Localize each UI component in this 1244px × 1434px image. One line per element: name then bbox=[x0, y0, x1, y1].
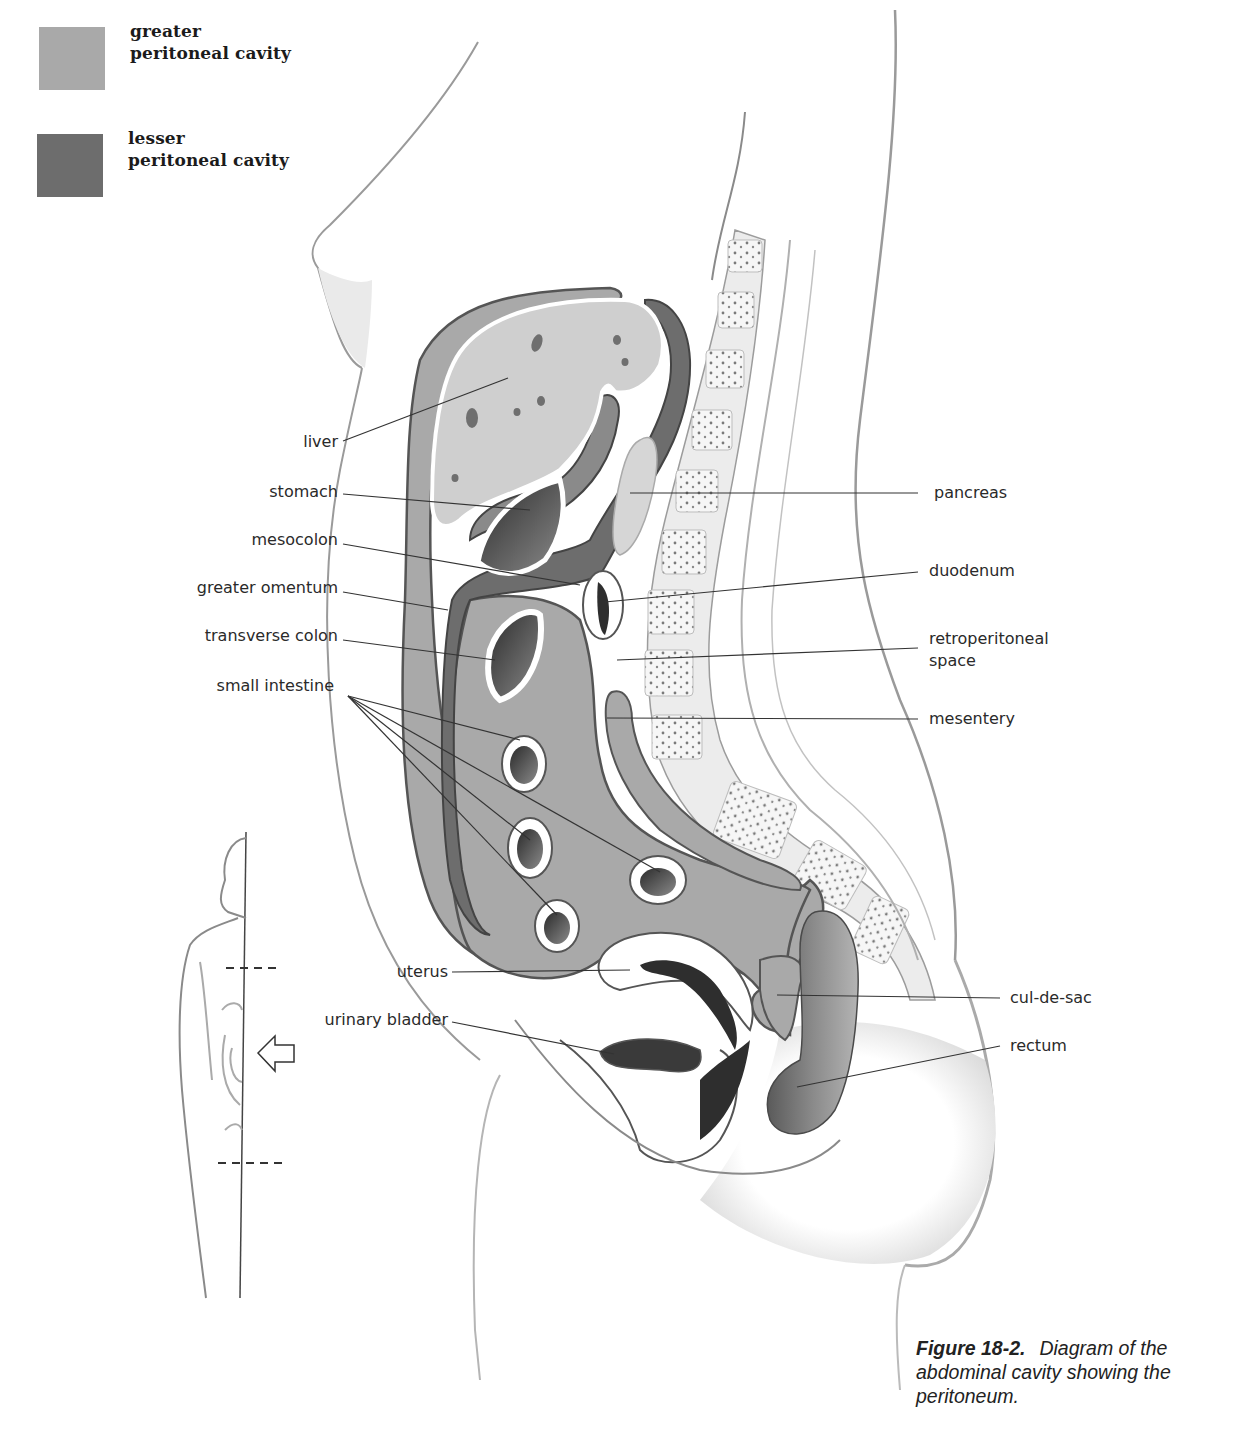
figure-number: Figure 18-2. bbox=[916, 1337, 1025, 1359]
legend-label-greater-cavity: greater peritoneal cavity bbox=[130, 20, 291, 64]
label-retroperitoneal-line2: space bbox=[929, 650, 1049, 672]
duodenum bbox=[583, 571, 623, 639]
hollow-arrow-left-icon bbox=[258, 1036, 294, 1071]
label-stomach: stomach bbox=[269, 481, 338, 503]
label-urinary-bladder: urinary bladder bbox=[325, 1009, 448, 1031]
legend-swatch-lesser-cavity bbox=[37, 134, 103, 197]
label-uterus: uterus bbox=[397, 961, 448, 983]
breast-shading bbox=[318, 268, 372, 368]
pancreas bbox=[613, 437, 657, 555]
label-liver: liver bbox=[303, 431, 338, 453]
label-small-intestine: small intestine bbox=[217, 675, 334, 697]
label-pancreas: pancreas bbox=[934, 482, 1007, 504]
legend-label-line1: greater bbox=[130, 20, 291, 42]
label-mesocolon: mesocolon bbox=[251, 529, 338, 551]
legend-swatch-greater-cavity bbox=[39, 27, 105, 90]
label-cul-de-sac: cul-de-sac bbox=[1010, 987, 1092, 1009]
label-transverse-colon: transverse colon bbox=[205, 625, 338, 647]
abdominal-cavity-illustration bbox=[0, 0, 1244, 1434]
label-retroperitoneal-line1: retroperitoneal bbox=[929, 628, 1049, 650]
legend-label-line2: peritoneal cavity bbox=[130, 42, 291, 64]
label-retroperitoneal-space: retroperitoneal space bbox=[929, 628, 1049, 672]
label-mesentery: mesentery bbox=[929, 708, 1015, 730]
label-greater-omentum: greater omentum bbox=[197, 577, 338, 599]
label-duodenum: duodenum bbox=[929, 560, 1015, 582]
legend-label-lesser-cavity: lesser peritoneal cavity bbox=[128, 127, 289, 171]
figure-caption: Figure 18-2.Diagram of the abdominal cav… bbox=[916, 1336, 1244, 1408]
legend-label-line1: lesser bbox=[128, 127, 289, 149]
legend-label-line2: peritoneal cavity bbox=[128, 149, 289, 171]
label-rectum: rectum bbox=[1010, 1035, 1067, 1057]
